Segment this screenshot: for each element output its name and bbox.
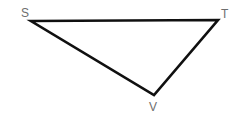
triangle-svg [0,0,243,123]
vertex-label-s: S [21,7,29,19]
triangle-shape-svt [31,20,218,95]
geometry-figure-canvas: S T V [0,0,243,123]
vertex-label-t: T [221,8,228,20]
vertex-label-v: V [149,101,157,113]
